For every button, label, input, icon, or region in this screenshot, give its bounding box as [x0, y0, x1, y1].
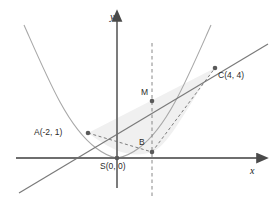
label-point-b: B [139, 138, 145, 147]
point-C [213, 66, 218, 71]
point-M [150, 99, 155, 104]
point-B [150, 150, 155, 155]
label-point-a: A(-2, 1) [34, 128, 62, 137]
point-A [86, 131, 91, 136]
secant-line [19, 44, 268, 193]
x-axis-label: x [250, 166, 254, 176]
geometry-figure: A(-2, 1) B C(4, 4) M S(0, 0) y x [0, 0, 275, 202]
label-point-s: S(0, 0) [100, 162, 126, 171]
y-axis-label: y [110, 12, 114, 22]
plot-canvas [0, 0, 275, 202]
point-S [115, 156, 120, 161]
label-point-c: C(4, 4) [218, 71, 244, 80]
label-point-m: M [141, 88, 148, 97]
shaded-region [88, 68, 215, 154]
